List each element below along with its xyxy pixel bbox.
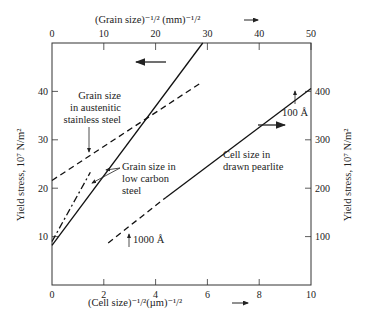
top-axis-label: (Grain size)⁻¹/² (mm)⁻¹/² — [95, 14, 200, 26]
svg-text:steel: steel — [122, 185, 141, 196]
svg-text:stainless steel: stainless steel — [64, 114, 122, 125]
annotation-austenitic: Grain size in austenitic stainless steel — [64, 90, 122, 152]
top-tick-label: 50 — [306, 28, 316, 39]
annotation-pearlite: Cell size in drawn pearlite — [223, 149, 284, 172]
right-tick-label: 200 — [315, 183, 330, 194]
series-lines — [52, 43, 311, 245]
left-tick-label: 10 — [38, 231, 48, 242]
svg-text:low carbon: low carbon — [122, 173, 170, 184]
svg-text:1000 Å: 1000 Å — [133, 234, 165, 245]
top-tick-label: 10 — [99, 28, 109, 39]
svg-text:Grain size in: Grain size in — [122, 161, 176, 172]
annotation-low-carbon: Grain size in low carbon steel — [92, 161, 176, 196]
right-tick-label: 300 — [315, 134, 330, 145]
low-carbon-pointer-dashdot-icon — [92, 168, 120, 183]
svg-text:Cell size in: Cell size in — [223, 149, 271, 160]
bottom-tick-label: 0 — [50, 289, 55, 300]
annotation-1000A: 1000 Å — [129, 234, 165, 247]
right-tick-label: 400 — [315, 86, 330, 97]
svg-text:in austenitic: in austenitic — [70, 102, 121, 113]
bottom-axis-label: (Cell size)⁻¹/²(µm)⁻¹/² — [88, 297, 182, 309]
series-line — [52, 172, 90, 241]
bottom-tick-label: 6 — [205, 289, 210, 300]
top-tick-label: 40 — [254, 28, 264, 39]
svg-text:100 Å: 100 Å — [282, 107, 308, 118]
annotation-100A: 100 Å — [282, 91, 308, 118]
left-tick-label: 20 — [38, 183, 48, 194]
right-axis-label: Yield stress, 10⁷ N/m² — [342, 129, 353, 222]
yield-stress-chart: 02468100102030405010203040100200300400 (… — [0, 0, 365, 325]
series-line — [52, 43, 203, 245]
left-axis-label: Yield stress, 10⁷ N/m² — [15, 129, 26, 222]
svg-text:Grain size: Grain size — [78, 90, 121, 101]
bottom-tick-label: 8 — [257, 289, 262, 300]
left-tick-label: 30 — [38, 134, 48, 145]
bottom-tick-label: 10 — [306, 289, 316, 300]
svg-text:drawn pearlite: drawn pearlite — [223, 161, 284, 172]
top-tick-label: 0 — [50, 28, 55, 39]
left-tick-label: 40 — [38, 86, 48, 97]
top-tick-label: 20 — [151, 28, 161, 39]
series-line — [166, 88, 311, 197]
right-tick-label: 100 — [315, 231, 330, 242]
top-tick-label: 30 — [202, 28, 212, 39]
